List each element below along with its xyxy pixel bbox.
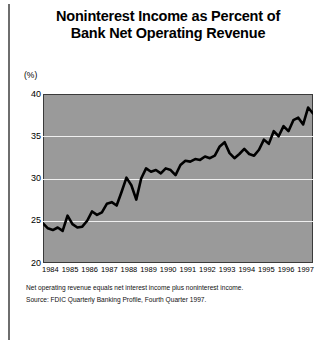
chart-title: Noninterest Income as Percent of Bank Ne… — [20, 8, 316, 42]
series-polyline — [43, 108, 313, 231]
chart-title-line-2: Bank Net Operating Revenue — [20, 25, 316, 42]
plot-area — [43, 94, 313, 263]
footnote-definition: Net operating revenue equals net interes… — [26, 282, 316, 294]
chart-footnotes: Net operating revenue equals net interes… — [26, 282, 316, 305]
x-tick-1997: 1997 — [293, 265, 319, 274]
footnote-source: Source: FDIC Quarterly Banking Profile, … — [26, 294, 316, 306]
series-line-chart — [43, 94, 313, 263]
x-axis-tick-labels: 1984198519861987198819891990199119921993… — [43, 265, 313, 277]
y-tick-25: 25 — [7, 216, 41, 225]
y-tick-30: 30 — [7, 174, 41, 183]
y-tick-40: 40 — [7, 90, 41, 99]
chart-title-line-1: Noninterest Income as Percent of — [20, 8, 316, 25]
y-tick-35: 35 — [7, 132, 41, 141]
y-tick-20: 20 — [7, 259, 41, 268]
